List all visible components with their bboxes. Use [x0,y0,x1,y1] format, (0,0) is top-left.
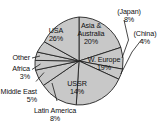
label-ussr: USSR 14% [62,80,92,96]
label-ussr-pct: 14% [62,88,92,96]
label-japan-pct: 8% [112,16,146,24]
label-w-europe-pct: 19% [84,64,124,72]
label-other-name: Other [13,53,30,62]
label-africa: Africa 3% [0,65,30,81]
label-latin-america: Latin America 8% [22,107,88,123]
label-africa-pct: 3% [0,73,30,81]
label-usa-pct: 26% [41,35,71,43]
label-asia-australia: Asia & Australia 20% [73,22,109,46]
label-w-europe: W. Europe 19% [84,56,124,72]
label-japan: (Japan) 8% [112,8,146,24]
label-china-pct: 4% [128,38,162,46]
label-middle-east: Middle East 5% [0,88,37,104]
label-middle-east-pct: 5% [0,96,37,104]
label-usa: USA 26% [41,27,71,43]
label-asia-australia-pct: 20% [73,38,109,46]
pie-chart: USA 26% Asia & Australia 20% W. Europe 1… [0,0,162,133]
label-other: Other [0,54,30,62]
label-latin-america-pct: 8% [22,115,88,123]
label-china: (China) 4% [128,30,162,46]
